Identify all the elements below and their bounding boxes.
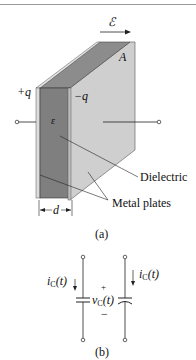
field-symbol: ℰ: [108, 16, 115, 28]
voltage-minus: −: [101, 308, 108, 320]
separation-label: d: [53, 204, 59, 216]
cap2-bottom-terminal: [123, 338, 127, 342]
permittivity-label: ε: [51, 116, 55, 126]
right-terminal: [157, 120, 161, 124]
voltage-plus: +: [101, 283, 106, 292]
left-terminal: [15, 120, 19, 124]
current-label-right: iC(t): [139, 268, 159, 282]
current-arrow-right: [131, 281, 135, 286]
positive-charge-label: +q: [17, 86, 31, 98]
caption-b: (b): [95, 346, 109, 358]
negative-charge-label: −q: [74, 90, 88, 102]
dielectric-label: Dielectric: [140, 171, 187, 183]
right-plate-edge: [68, 88, 71, 200]
cap1-top-terminal: [81, 255, 85, 259]
area-label: A: [119, 51, 126, 63]
current-label-left: iC(t): [47, 275, 67, 289]
cap1-bottom-terminal: [81, 338, 85, 342]
field-arrow-head: [125, 30, 131, 35]
caption-a: (a): [95, 228, 108, 240]
metal-plates-label: Metal plates: [112, 197, 171, 209]
voltage-label: vC(t): [92, 294, 114, 308]
cap2-top-terminal: [123, 255, 127, 259]
left-metal-plate-edge: [36, 88, 40, 198]
dielectric-front-face: [40, 88, 70, 198]
current-arrow-left: [73, 286, 77, 291]
